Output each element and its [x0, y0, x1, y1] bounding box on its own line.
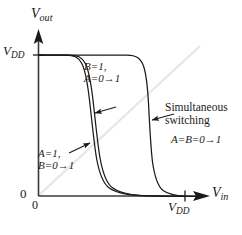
x-tick-label-vdd: VDD	[168, 200, 189, 216]
annotation-middle-curve-line2: A=0→1	[84, 72, 120, 84]
annotation-right-curve: Simultaneous switching	[165, 101, 228, 127]
annotation-right-curve-line2: switching	[165, 114, 228, 127]
annotation-left-curve-line1: A=1,	[38, 147, 74, 159]
annotation-right-curve-equation: A=B=0→1	[171, 133, 221, 145]
annotation-left-curve-line2: B=0→1	[38, 159, 74, 171]
y-tick-label-zero: 0	[20, 187, 27, 202]
x-axis-title: Vin	[212, 185, 228, 202]
x-tick-label-zero: 0	[32, 199, 38, 212]
y-axis-title: Vout	[31, 6, 52, 23]
annotation-middle-curve: B=1, A=0→1	[84, 60, 120, 85]
annotation-left-curve: A=1, B=0→1	[38, 147, 74, 172]
vtc-figure: Vout Vin VDD 0 0 VDD B=1, A=0→1 A=1, B=0…	[0, 0, 242, 235]
pointer-to-middle-curve	[95, 107, 116, 113]
annotation-right-curve-line1: Simultaneous	[165, 101, 228, 114]
annotation-middle-curve-line1: B=1,	[84, 60, 120, 72]
y-tick-label-vdd: VDD	[3, 44, 24, 60]
